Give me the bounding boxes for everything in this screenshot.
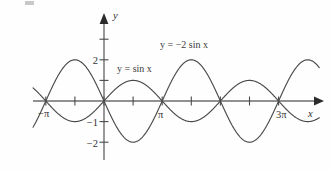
annotation-y-equals-neg-2-sin-x: y = −2 sin x	[160, 39, 208, 50]
y-axis-label: y	[112, 10, 118, 21]
x-tick-label-pi: π	[158, 109, 164, 120]
x-axis-label: x	[307, 108, 313, 119]
y-axis-arrowhead	[100, 13, 109, 24]
x-axis-arrowhead	[314, 97, 324, 106]
x-tick-label-neg-pi: −π	[38, 108, 50, 119]
sine-graph-plot: y x −π π 3π 2 −1 −2 y = sin x y = −2 sin…	[0, 0, 332, 171]
y-tick-label-2: 2	[93, 55, 98, 66]
y-tick-label-neg-1: −1	[87, 117, 98, 128]
figure-container: y x −π π 3π 2 −1 −2 y = sin x y = −2 sin…	[0, 0, 332, 171]
x-tick-label-three-pi: 3π	[276, 109, 287, 120]
annotation-y-equals-sin-x: y = sin x	[117, 63, 152, 74]
y-axis	[100, 13, 109, 160]
y-tick-label-neg-2: −2	[87, 138, 98, 149]
